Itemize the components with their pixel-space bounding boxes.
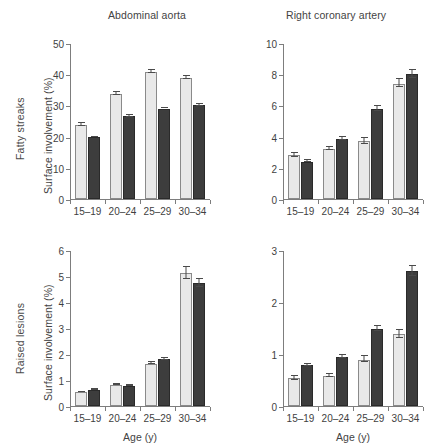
error-bar — [116, 91, 117, 95]
y-tick-label: 3 — [271, 246, 277, 257]
plot-area: 024681015–1920–2425–2930–34 — [283, 44, 423, 200]
bar-dark — [158, 109, 170, 199]
y-tick-label: 30 — [53, 101, 64, 112]
y-tick-label: 50 — [53, 39, 64, 50]
y-tick-label: 0 — [271, 195, 277, 206]
bar-dark — [406, 271, 418, 406]
error-bar — [164, 107, 165, 109]
bar-dark — [88, 390, 100, 406]
x-category-label: 20–24 — [109, 413, 137, 424]
x-tick-mark — [210, 200, 211, 204]
x-category-label: 30–34 — [392, 206, 420, 217]
bar-light — [145, 72, 157, 199]
x-tick-mark — [283, 200, 284, 204]
bar-group — [75, 250, 100, 406]
error-bar — [199, 103, 200, 106]
y-tick-label: 3 — [58, 324, 64, 335]
x-category-label: 15–19 — [287, 413, 315, 424]
y-tick-label: 6 — [271, 101, 277, 112]
bar-dark — [88, 137, 100, 199]
bar-light — [110, 385, 122, 406]
error-bar — [94, 388, 95, 390]
x-tick-mark — [423, 200, 424, 204]
plot-area: 012345615–1920–2425–2930–34 — [70, 251, 210, 407]
bar-light — [180, 78, 192, 199]
x-category-label: 15–19 — [74, 206, 102, 217]
y-tick-mark — [66, 381, 70, 382]
x-tick-mark — [70, 200, 71, 204]
bar-light — [288, 155, 300, 199]
error-bar — [186, 266, 187, 279]
chart-panel-bottom-left: 012345615–1920–2425–2930–34Surface invol… — [30, 245, 220, 435]
x-category-label: 15–19 — [287, 206, 315, 217]
plot-area: 012315–1920–2425–2930–34 — [283, 251, 423, 407]
y-tick-label: 2 — [58, 350, 64, 361]
error-bar — [81, 391, 82, 393]
row-label-fatty-streaks: Fatty streaks — [14, 97, 26, 160]
y-tick-label: 40 — [53, 70, 64, 81]
bar-dark — [123, 386, 135, 406]
y-tick-mark — [66, 138, 70, 139]
bar-dark — [193, 283, 205, 406]
bar-dark — [371, 329, 383, 406]
error-bar — [129, 384, 130, 386]
row-label-raised-lesions: Raised lesions — [14, 303, 26, 374]
error-bar — [342, 354, 343, 359]
x-category-label: 30–34 — [179, 413, 207, 424]
bar-group — [393, 250, 418, 406]
y-axis — [283, 44, 284, 200]
x-tick-mark — [388, 200, 389, 204]
y-tick-mark — [66, 106, 70, 107]
bar-light — [75, 125, 87, 199]
x-tick-mark — [318, 200, 319, 204]
y-tick-mark — [66, 169, 70, 170]
y-tick-mark — [279, 106, 283, 107]
y-tick-mark — [279, 138, 283, 139]
y-tick-mark — [66, 355, 70, 356]
y-tick-mark — [66, 329, 70, 330]
y-tick-mark — [279, 75, 283, 76]
error-bar — [399, 78, 400, 87]
bar-group — [288, 250, 313, 406]
x-tick-mark — [70, 407, 71, 411]
error-bar — [294, 152, 295, 157]
bar-light — [288, 378, 300, 406]
bar-dark — [406, 74, 418, 199]
y-tick-label: 0 — [58, 402, 64, 413]
y-tick-mark — [279, 251, 283, 252]
y-tick-label: 8 — [271, 70, 277, 81]
x-category-label: 20–24 — [109, 206, 137, 217]
x-tick-mark — [175, 200, 176, 204]
bar-light — [393, 334, 405, 406]
error-bar — [307, 363, 308, 367]
bar-dark — [123, 116, 135, 199]
bar-dark — [371, 109, 383, 199]
plot-area: 0102030405015–1920–2425–2930–34 — [70, 44, 210, 200]
x-tick-mark — [388, 407, 389, 411]
y-tick-label: 10 — [266, 39, 277, 50]
y-tick-mark — [279, 355, 283, 356]
error-bar — [329, 146, 330, 151]
y-tick-mark — [66, 75, 70, 76]
x-tick-mark — [318, 407, 319, 411]
x-category-label: 30–34 — [392, 413, 420, 424]
y-tick-label: 5 — [58, 272, 64, 283]
bar-light — [145, 364, 157, 406]
error-bar — [151, 69, 152, 73]
bar-group — [180, 250, 205, 406]
y-axis-title: Surface involvement (%) — [42, 77, 54, 194]
error-bar — [329, 373, 330, 378]
y-tick-mark — [66, 44, 70, 45]
x-tick-mark — [175, 407, 176, 411]
error-bar — [129, 114, 130, 116]
y-tick-mark — [279, 44, 283, 45]
x-category-label: 25–29 — [357, 206, 385, 217]
bar-dark — [336, 357, 348, 406]
error-bar — [342, 136, 343, 141]
error-bar — [377, 105, 378, 111]
bar-light — [75, 392, 87, 406]
error-bar — [199, 278, 200, 287]
y-tick-mark — [66, 251, 70, 252]
x-tick-mark — [140, 200, 141, 204]
error-bar — [186, 75, 187, 79]
